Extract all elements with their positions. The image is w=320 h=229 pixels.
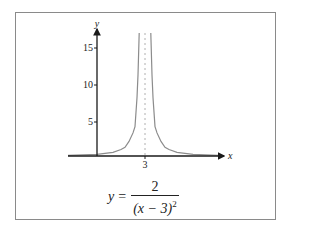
x-axis-label: x bbox=[227, 150, 233, 161]
y-tick-label-10: 10 bbox=[83, 79, 93, 90]
y-tick-label-5: 5 bbox=[88, 116, 93, 127]
x-tick-label-3: 3 bbox=[143, 159, 148, 170]
curve-right-branch bbox=[151, 33, 224, 156]
formula-lhs: y bbox=[108, 189, 114, 205]
formula-denominator: (x − 3)2 bbox=[131, 195, 179, 216]
y-axis-label: y bbox=[94, 18, 100, 29]
function-formula: y = 2 (x − 3)2 bbox=[108, 178, 179, 216]
formula-fraction: 2 (x − 3)2 bbox=[131, 179, 179, 216]
formula-denominator-base: (x − 3) bbox=[133, 200, 172, 215]
formula-exponent: 2 bbox=[172, 199, 177, 209]
formula-numerator: 2 bbox=[149, 179, 160, 195]
formula-equals: = bbox=[118, 189, 126, 205]
curve-left-branch bbox=[68, 33, 139, 155]
y-tick-label-15: 15 bbox=[83, 42, 93, 53]
